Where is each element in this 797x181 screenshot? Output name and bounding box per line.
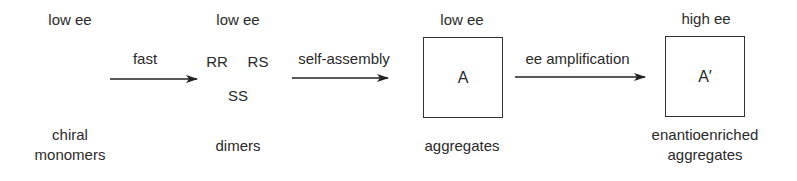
arrow-ee-amplification-label: ee amplification [510, 50, 645, 68]
species-rs: RS [244, 53, 272, 71]
stage3-ee: low ee [432, 11, 492, 29]
stage1-ee: low ee [40, 11, 100, 29]
stage2-label-line1: dimers [203, 137, 273, 155]
stage4-label-line1: enantioenriched [630, 126, 780, 144]
species-rr: RR [203, 53, 231, 71]
stage4-ee: high ee [669, 10, 743, 28]
arrow-self-assembly-label: self-assembly [284, 50, 404, 68]
aggregate-box-a-prime: A′ [665, 36, 745, 117]
stage1-label-line1: chiral [30, 126, 110, 144]
aggregate-box-a: A [423, 37, 503, 118]
stage1-label-line2: monomers [20, 146, 120, 164]
aggregate-box-a-prime-label: A′ [666, 68, 744, 86]
stage2-ee: low ee [208, 11, 268, 29]
stage3-label-line1: aggregates [412, 137, 512, 155]
stage4-label-line2: aggregates [655, 146, 755, 164]
arrow-fast-label: fast [125, 50, 165, 68]
species-ss: SS [224, 87, 252, 105]
aggregate-box-a-label: A [424, 69, 502, 87]
